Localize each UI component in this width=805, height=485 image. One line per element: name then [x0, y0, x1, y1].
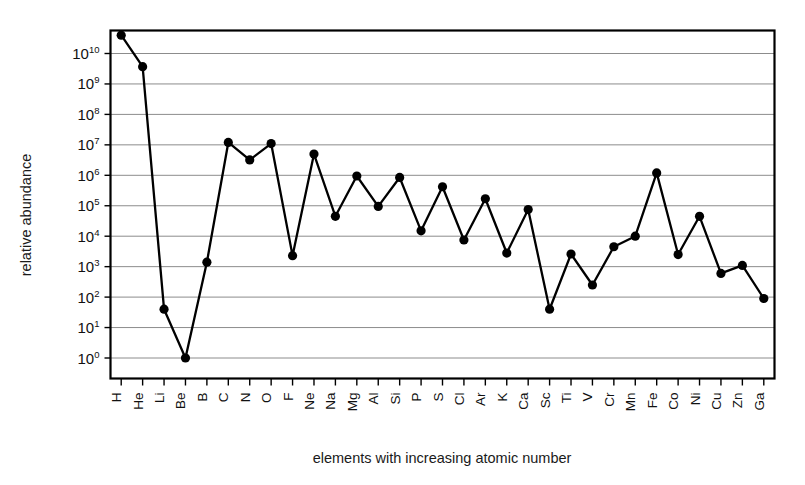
x-tick-label-Mn: Mn	[623, 393, 638, 412]
data-point-Mn	[631, 232, 640, 241]
x-tick-label-Ga: Ga	[752, 392, 767, 411]
data-point-Zn	[738, 261, 747, 270]
y-axis-title: relative abundance	[18, 154, 34, 277]
x-tick-label-Ti: Ti	[559, 393, 574, 404]
x-tick-label-V: V	[580, 393, 595, 402]
x-tick-label-Ne: Ne	[302, 393, 317, 410]
x-tick-label-Mg: Mg	[345, 393, 360, 412]
data-point-F	[288, 251, 297, 260]
x-tick-label-Cu: Cu	[709, 393, 724, 410]
data-point-Ni	[695, 212, 704, 221]
chart-canvas: 1001011021031041051061071081091010 HHeLi…	[0, 0, 805, 485]
x-tick-label-Fe: Fe	[645, 393, 660, 409]
data-point-Mg	[352, 171, 361, 180]
data-point-B	[202, 258, 211, 267]
x-tick-label-Si: Si	[388, 393, 403, 405]
data-point-Be	[181, 353, 190, 362]
data-point-C	[224, 138, 233, 147]
data-point-Ca	[524, 205, 533, 214]
data-point-Al	[374, 202, 383, 211]
x-tick-label-P: P	[409, 393, 424, 402]
x-tick-label-F: F	[281, 393, 296, 401]
abundance-chart: 1001011021031041051061071081091010 HHeLi…	[0, 0, 805, 485]
x-tick-label-He: He	[131, 393, 146, 410]
data-point-Sc	[545, 305, 554, 314]
data-point-Fe	[652, 168, 661, 177]
data-point-N	[245, 155, 254, 164]
x-tick-label-Cr: Cr	[602, 392, 617, 407]
x-tick-label-Ca: Ca	[516, 392, 531, 410]
x-tick-label-Na: Na	[323, 392, 338, 410]
x-tick-label-C: C	[216, 392, 231, 402]
data-point-Ti	[566, 249, 575, 258]
data-point-He	[138, 62, 147, 71]
data-point-V	[588, 280, 597, 289]
x-tick-label-Cl: Cl	[452, 393, 467, 406]
data-point-Li	[159, 305, 168, 314]
x-tick-label-Ni: Ni	[688, 393, 703, 406]
data-point-Ar	[481, 194, 490, 203]
data-point-Si	[395, 173, 404, 182]
data-point-Ne	[309, 149, 318, 158]
data-point-Cr	[609, 242, 618, 251]
x-tick-label-Zn: Zn	[730, 393, 745, 409]
x-tick-label-Ar: Ar	[473, 392, 488, 406]
x-axis-title: elements with increasing atomic number	[313, 450, 572, 466]
x-tick-label-B: B	[195, 393, 210, 402]
data-point-P	[416, 226, 425, 235]
data-point-Cl	[459, 235, 468, 244]
x-tick-label-S: S	[431, 393, 446, 402]
x-tick-label-O: O	[259, 393, 274, 404]
x-tick-label-K: K	[495, 393, 510, 402]
data-point-Na	[331, 212, 340, 221]
data-point-H	[117, 31, 126, 40]
x-tick-label-H: H	[109, 393, 124, 403]
x-tick-label-N: N	[238, 393, 253, 403]
x-tick-label-Li: Li	[152, 393, 167, 404]
data-point-Ga	[759, 294, 768, 303]
x-tick-label-Al: Al	[366, 393, 381, 405]
data-point-O	[267, 139, 276, 148]
data-point-Co	[674, 250, 683, 259]
data-point-Cu	[716, 269, 725, 278]
data-point-S	[438, 182, 447, 191]
x-tick-label-Sc: Sc	[538, 392, 553, 408]
x-tick-label-Co: Co	[666, 393, 681, 410]
data-point-K	[502, 248, 511, 257]
x-tick-label-Be: Be	[173, 393, 188, 410]
